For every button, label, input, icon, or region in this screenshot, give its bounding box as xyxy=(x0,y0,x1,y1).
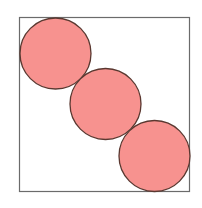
diagram-canvas xyxy=(0,0,202,208)
circle-bottom-right xyxy=(119,121,190,192)
circle-middle xyxy=(70,69,141,140)
